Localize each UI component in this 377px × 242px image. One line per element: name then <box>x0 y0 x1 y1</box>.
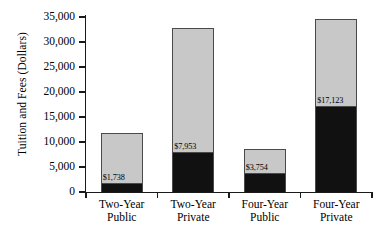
y-axis-title: Tuition and Fees (Dollars) <box>16 9 28 179</box>
y-tick-mark <box>79 116 86 117</box>
bar-segment-lower[interactable] <box>316 106 356 192</box>
bar-stack[interactable]: $7,953 <box>172 28 214 193</box>
bar-segment-upper[interactable] <box>316 20 356 107</box>
bar-value-label: $1,738 <box>103 174 125 182</box>
bar-group[interactable]: $3,754 <box>244 149 286 193</box>
y-tick-label: 35,000 <box>43 11 75 23</box>
y-tick-label: 5,000 <box>49 161 75 173</box>
bar-stack[interactable]: $1,738 <box>101 133 143 193</box>
y-tick-mark <box>79 16 86 17</box>
bar-segment-lower[interactable] <box>102 183 142 192</box>
bar-value-label: $3,754 <box>246 164 268 172</box>
bar-value-label: $7,953 <box>174 143 196 151</box>
y-tick-label: 0 <box>69 186 75 198</box>
y-tick-label: 25,000 <box>43 61 75 73</box>
bar-segment-lower[interactable] <box>173 152 213 192</box>
bar-group[interactable]: $7,953 <box>172 28 214 193</box>
stacked-bar-chart: Tuition and Fees (Dollars) 05,00010,0001… <box>0 0 377 242</box>
bar-stack[interactable]: $3,754 <box>244 149 286 193</box>
bar-segment-lower[interactable] <box>245 173 285 192</box>
y-tick-mark <box>79 141 86 142</box>
y-tick-mark <box>79 91 86 92</box>
y-tick-label: 30,000 <box>43 36 75 48</box>
y-tick-label: 20,000 <box>43 86 75 98</box>
y-tick-mark <box>79 41 86 42</box>
y-tick-label: 15,000 <box>43 111 75 123</box>
bar-stack[interactable]: $17,123 <box>315 19 357 193</box>
x-category-label: Four-YearPrivate <box>291 198 377 223</box>
y-tick-label: 10,000 <box>43 136 75 148</box>
bar-group[interactable]: $1,738 <box>101 133 143 193</box>
y-tick-mark <box>79 166 86 167</box>
bar-group[interactable]: $17,123 <box>315 19 357 193</box>
bar-value-label: $17,123 <box>317 97 343 105</box>
plot-area: $1,738$7,953$3,754$17,123 <box>86 17 372 192</box>
bar-segment-upper[interactable] <box>173 29 213 153</box>
y-tick-mark <box>79 66 86 67</box>
